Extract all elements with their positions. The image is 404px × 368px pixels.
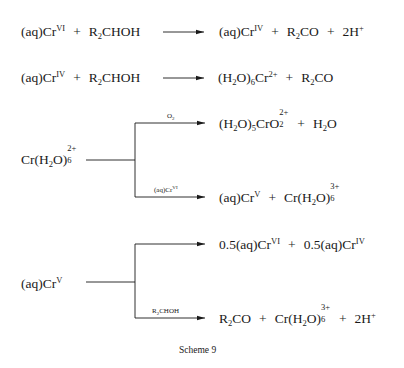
branch-1-lower-condition: (aq)CrVI bbox=[154, 187, 178, 194]
branch-2-lower-products: R2CO+Cr(H2O)3+6+2H+ bbox=[219, 312, 376, 326]
branch-1-lines bbox=[86, 123, 205, 197]
scheme-caption: Scheme 9 bbox=[179, 346, 216, 356]
branch-1-upper-condition: O2 bbox=[167, 113, 175, 120]
branch-2-upper-products: 0.5(aq)CrVI+0.5(aq)CrIV bbox=[219, 238, 365, 252]
reaction-2-reactants: (aq)CrIV+R2CHOH bbox=[21, 71, 140, 85]
branch-1-lower-products: (aq)CrV+Cr(H2O)3+6 bbox=[219, 191, 340, 205]
branch-1-upper-products: (H2O)5CrO2+2+H2O bbox=[219, 117, 337, 131]
branch-2-lower-condition: R2CHOH bbox=[152, 308, 179, 315]
branch-1-reactant: Cr(H2O)2+6 bbox=[21, 153, 77, 167]
branch-2-lines bbox=[86, 244, 205, 318]
reaction-1-products: (aq)CrIV+R2CO+2H+ bbox=[219, 25, 364, 39]
reaction-2-products: (H2O)6Cr2++R2CO bbox=[218, 71, 333, 85]
reaction-1-reactants: (aq)CrVI+R2CHOH bbox=[21, 25, 140, 39]
branch-2-reactant: (aq)CrV bbox=[21, 277, 62, 291]
